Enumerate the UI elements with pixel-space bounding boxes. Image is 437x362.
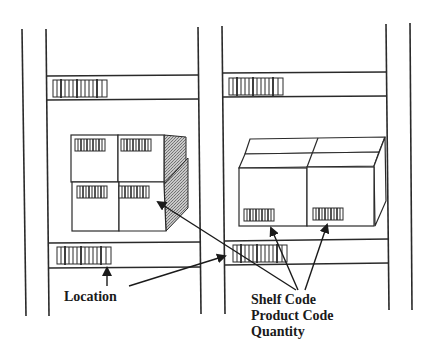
left-bottom-shelf-barcode	[57, 246, 111, 265]
right-top-shelf-barcode	[229, 77, 283, 96]
quantity-label: Quantity	[251, 324, 334, 340]
arrow-stack-to-right-box-2	[305, 225, 327, 290]
right-carton-top-face-front	[239, 152, 379, 168]
left-box-barcode-1	[75, 139, 105, 151]
left-box-barcode-4	[119, 186, 149, 198]
upright-right-inner	[386, 24, 389, 310]
warehouse-shelf-diagram	[0, 0, 437, 362]
upright-center-left	[198, 27, 201, 314]
right-box-barcode-2	[313, 208, 343, 220]
left-top-shelf-barcode	[53, 79, 107, 98]
upright-left-outer	[22, 29, 26, 316]
left-stacked-boxes	[71, 135, 188, 231]
left-box-barcode-2	[121, 139, 151, 151]
right-bottom-rail-upper	[225, 239, 389, 241]
left-box-barcode-3	[77, 186, 107, 198]
left-bottom-rail-upper	[49, 242, 201, 243]
right-cartons	[239, 137, 386, 226]
right-top-rail-upper	[223, 72, 386, 73]
location-label: Location	[64, 289, 117, 305]
left-top-rail-upper	[47, 75, 198, 76]
left-top-rail-lower	[47, 99, 199, 100]
shelf-product-quantity-label: Shelf Code Product Code Quantity	[251, 292, 334, 340]
right-box-barcode-1	[244, 209, 274, 221]
right-top-rail-lower	[223, 96, 387, 97]
upright-center-right	[222, 26, 225, 314]
shelf-code-label: Shelf Code	[251, 292, 334, 308]
right-bottom-rail-lower	[225, 263, 389, 265]
upright-left-inner	[46, 29, 49, 316]
upright-right-outer	[410, 23, 412, 310]
left-bottom-rail-lower	[49, 267, 201, 268]
product-code-label: Product Code	[251, 308, 334, 324]
arrow-location-to-right-shelf	[129, 256, 225, 286]
